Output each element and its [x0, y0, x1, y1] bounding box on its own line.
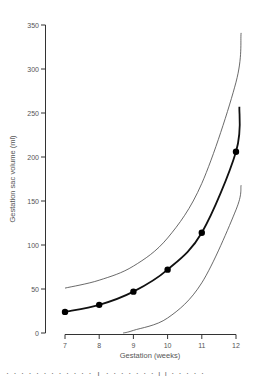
x-tick-label: 12 — [232, 342, 240, 349]
y-tick-label: 150 — [27, 198, 39, 205]
upper-limit-curve — [65, 33, 241, 288]
cutoff-caption-text: · · · · · · · · · · · · T · · · · · · · … — [0, 372, 260, 379]
x-tick-label: 9 — [131, 342, 135, 349]
chart-canvas: 050100150200250300350 Gestation sac volu… — [0, 0, 260, 379]
data-point-marker — [96, 302, 102, 308]
x-tick-label: 10 — [164, 342, 172, 349]
y-tick-label: 250 — [27, 110, 39, 117]
y-axis-ticks: 050100150200250300350 — [27, 22, 45, 337]
data-point-marker — [164, 266, 170, 272]
x-axis-title: Gestation (weeks) — [120, 351, 181, 360]
y-tick-label: 0 — [35, 330, 39, 337]
data-point-marker — [130, 288, 136, 294]
x-axis-ticks: 789101112 — [63, 335, 240, 350]
y-tick-label: 100 — [27, 242, 39, 249]
mean-data-points — [62, 149, 239, 316]
y-axis-title: Gestation sac volume (ml) — [8, 135, 17, 223]
data-point-marker — [233, 149, 239, 155]
x-tick-label: 11 — [198, 342, 205, 349]
lower-limit-curve — [123, 185, 241, 333]
y-tick-label: 350 — [27, 22, 39, 29]
mean-curve — [65, 107, 240, 312]
x-tick-label: 8 — [97, 342, 101, 349]
x-tick-label: 7 — [63, 342, 67, 349]
y-tick-label: 200 — [27, 154, 39, 161]
y-tick-label: 300 — [27, 66, 39, 73]
data-point-marker — [199, 229, 205, 235]
y-tick-label: 50 — [31, 286, 39, 293]
caption-fragment: · · · · · · · · · · · · T · · · · · · · … — [0, 372, 260, 378]
data-point-marker — [62, 309, 68, 315]
